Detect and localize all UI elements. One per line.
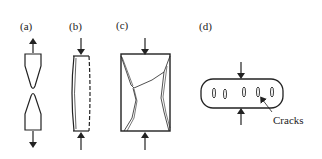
panel-a-specimen: [25, 41, 41, 145]
cracks-annotation: Cracks: [273, 115, 304, 126]
diagram-drawing: [0, 0, 322, 159]
panel-c-label: (c): [116, 20, 128, 31]
panel-c-block: [121, 38, 170, 150]
figure-diagram: (a) (b) (c) (d) Cracks: [0, 0, 322, 159]
panel-a-label: (a): [20, 21, 32, 32]
panel-d-specimen: [201, 62, 283, 125]
panel-b-bar: [72, 38, 90, 150]
panel-d-label: (d): [199, 21, 212, 32]
panel-b-label: (b): [69, 21, 82, 32]
